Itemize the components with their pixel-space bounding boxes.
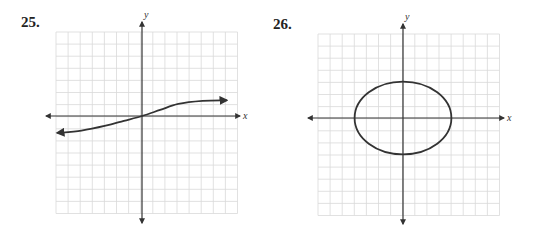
x-axis-label: x: [242, 110, 248, 121]
y-axis-label: y: [404, 11, 410, 22]
grid: [318, 34, 500, 216]
x-axis-label: x: [506, 112, 512, 123]
grid: [56, 32, 238, 214]
graph-26: xy: [308, 11, 512, 224]
y-axis-label: y: [143, 9, 149, 20]
graph-25: xy: [46, 9, 248, 223]
graphs: xyxy: [0, 0, 537, 239]
